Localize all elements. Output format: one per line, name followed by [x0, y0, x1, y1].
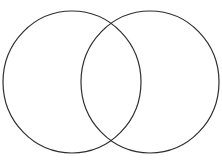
venn-diagram-svg [0, 0, 222, 166]
venn-diagram-canvas [0, 0, 222, 166]
